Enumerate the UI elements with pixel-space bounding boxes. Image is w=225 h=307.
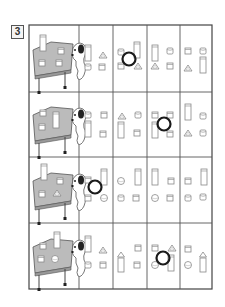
- row-4: [33, 224, 211, 291]
- reference-scene-1: [33, 35, 86, 94]
- option-cell[interactable]: [80, 224, 112, 288]
- option-cell[interactable]: [80, 158, 112, 222]
- option-cell[interactable]: [114, 93, 146, 156]
- row-3: [33, 158, 211, 225]
- option-cell[interactable]: [181, 224, 211, 288]
- option-cell[interactable]: [148, 93, 179, 156]
- row-1: [33, 26, 211, 94]
- option-cell[interactable]: [181, 93, 211, 156]
- reference-scene-2: [33, 107, 86, 159]
- option-cell[interactable]: [114, 224, 146, 288]
- option-cell[interactable]: [148, 26, 179, 91]
- reference-scene-3: [33, 164, 86, 225]
- option-cell[interactable]: [80, 93, 112, 156]
- option-cell[interactable]: [80, 26, 112, 91]
- option-cell[interactable]: [114, 158, 146, 222]
- option-cell[interactable]: [181, 158, 211, 222]
- option-cell[interactable]: [114, 26, 146, 91]
- option-cell[interactable]: [181, 26, 211, 91]
- option-cell[interactable]: [148, 158, 179, 222]
- worksheet: [0, 0, 225, 307]
- reference-scene-4: [33, 232, 86, 291]
- option-cell[interactable]: [148, 224, 179, 288]
- row-2: [33, 93, 211, 159]
